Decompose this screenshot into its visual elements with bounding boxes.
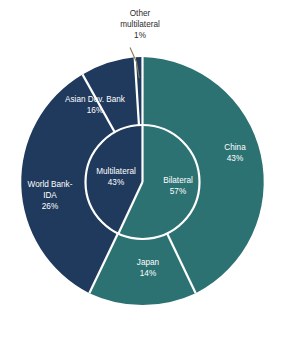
label-world-bank-ida-line2: IDA [43, 191, 57, 200]
label-asian-dev-bank-line2: 16% [87, 106, 103, 115]
label-multilateral-line2: 43% [108, 178, 124, 187]
label-asian-dev-bank-line1: Asian Dev. Bank [65, 95, 126, 104]
label-multilateral-line1: Multilateral [96, 167, 136, 176]
label-other-multilateral-line1: Other [130, 9, 151, 18]
label-japan-line1: Japan [137, 258, 160, 267]
label-world-bank-ida-line3: 26% [42, 202, 58, 211]
label-bilateral-line1: Bilateral [163, 176, 193, 185]
label-world-bank-ida-line1: World Bank- [28, 180, 73, 189]
label-china-line2: 43% [227, 154, 243, 163]
label-other-multilateral-line3: 1% [134, 31, 146, 40]
label-other-multilateral: Other multilateral 1% [120, 9, 160, 40]
nested-pie-chart: Other multilateral 1% Asian Dev. Bank 16… [0, 0, 291, 344]
pie-chart-figure: Other multilateral 1% Asian Dev. Bank 16… [0, 0, 291, 344]
label-china-line1: China [224, 143, 246, 152]
label-japan-line2: 14% [140, 269, 156, 278]
label-bilateral-line2: 57% [170, 187, 186, 196]
label-other-multilateral-line2: multilateral [120, 20, 160, 29]
